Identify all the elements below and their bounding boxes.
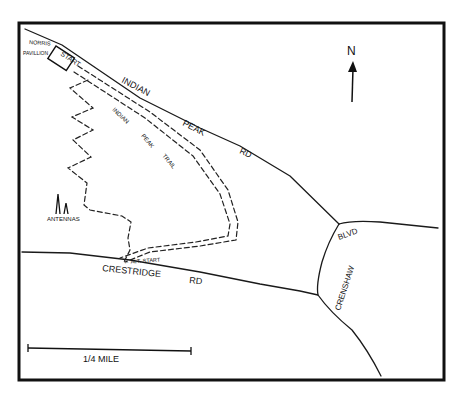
blvd-label: BLVD — [337, 226, 359, 241]
crestridge-label: CRESTRIDGE — [102, 263, 162, 279]
trail-peak-label: PEAK — [140, 133, 155, 149]
trail-trail-label: TRAIL — [161, 153, 177, 170]
peak-rd-label: PEAK — [181, 118, 207, 138]
rd-label: RD — [238, 146, 253, 160]
indian-peak-trail-path-b — [74, 72, 230, 258]
antennas-label: ANTENNAS — [47, 216, 80, 222]
crestridge-road — [22, 252, 318, 295]
norris-label: NORRIS — [29, 39, 51, 47]
crestridge-rd-label: RD — [189, 275, 203, 286]
crenshaw-boulevard — [318, 224, 382, 376]
crenshaw-label: CRENSHAW — [333, 264, 356, 311]
trail-map: START NORRIS PAVILLION ANTENNAS INDIAN P… — [0, 0, 462, 402]
trail-indian-label: INDIAN — [111, 106, 130, 124]
start-marker: START — [48, 46, 83, 71]
north-arrow-icon — [348, 61, 357, 102]
antennas-icon — [56, 194, 68, 214]
pavilion-label: PAVILLION — [23, 50, 48, 56]
north-label: N — [347, 44, 356, 58]
switchback-trail — [68, 80, 131, 262]
scale-label: 1/4 MILE — [83, 354, 119, 364]
indian-peak-trail-path-a — [78, 66, 238, 262]
